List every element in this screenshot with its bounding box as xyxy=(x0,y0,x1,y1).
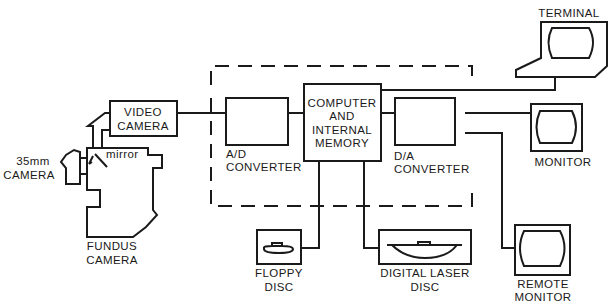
computer-label-2: AND xyxy=(329,110,354,122)
da-converter-label-1: D/A xyxy=(394,150,414,162)
fundus-camera-label-1: FUNDUS xyxy=(87,240,137,252)
line-computer-to-terminal xyxy=(381,78,555,90)
terminal-icon xyxy=(516,22,607,77)
remote-monitor-label-1: REMOTE xyxy=(517,278,569,290)
ad-converter-label-2: CONVERTER xyxy=(226,161,302,173)
laser-disc-label-2: DISC xyxy=(410,281,439,293)
fundus-camera-body xyxy=(87,148,162,237)
ad-converter-label-1: A/D xyxy=(226,148,246,160)
camera-35mm-label-1: 35mm xyxy=(16,155,50,167)
computer-label-1: COMPUTER xyxy=(307,97,376,109)
floppy-disc-icon xyxy=(257,230,301,264)
block-diagram: VIDEO CAMERA 35mm CAMERA mirror FUNDUS C… xyxy=(0,0,612,306)
remote-monitor-label-2: MONITOR xyxy=(515,291,572,303)
monitor-label: MONITOR xyxy=(535,156,592,168)
monitor-icon xyxy=(531,104,582,151)
laser-disc-icon xyxy=(379,230,471,264)
terminal-body xyxy=(516,22,607,77)
laser-disc-label-1: DIGITAL LASER xyxy=(380,267,470,279)
line-computer-to-laser xyxy=(364,161,379,248)
mirror-label: mirror xyxy=(106,148,138,160)
video-camera-label-2: CAMERA xyxy=(117,120,169,132)
remote-monitor-icon xyxy=(515,225,570,275)
camera-35mm-label-2: CAMERA xyxy=(3,169,55,181)
periscope-tube xyxy=(88,113,110,148)
camera-35mm-body xyxy=(61,150,80,184)
fundus-camera-label-2: CAMERA xyxy=(86,254,138,266)
terminal-label: TERMINAL xyxy=(538,7,600,19)
camera-35mm-adapter xyxy=(80,158,87,174)
floppy-disc-label-2: DISC xyxy=(264,281,293,293)
floppy-disc-label-1: FLOPPY xyxy=(255,267,303,279)
video-camera-label-1: VIDEO xyxy=(124,106,162,118)
ad-converter-box xyxy=(226,98,288,145)
computer-box xyxy=(304,84,381,161)
line-da-to-remote-monitor xyxy=(465,133,518,248)
da-converter-box xyxy=(395,98,455,145)
computer-label-4: MEMORY xyxy=(315,137,369,149)
computer-label-3: INTERNAL xyxy=(312,124,372,136)
da-converter-label-2: CONVERTER xyxy=(394,163,470,175)
line-computer-to-floppy xyxy=(301,161,319,248)
